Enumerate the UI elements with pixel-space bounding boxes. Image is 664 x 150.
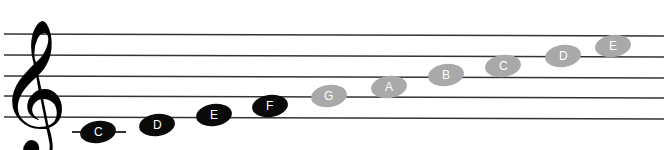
treble-clef-icon: 𝄞 (0, 18, 68, 150)
svg-text:𝄞: 𝄞 (0, 18, 68, 150)
